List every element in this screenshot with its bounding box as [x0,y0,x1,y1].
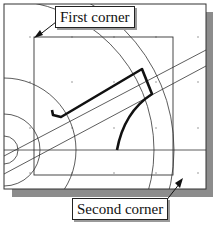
first-corner-callout: First corner [55,6,135,28]
drawing-canvas[interactable] [0,0,219,225]
frame-shadow-right [206,12,213,197]
frame-shadow-bottom [12,189,213,197]
second-corner-callout: Second corner [72,198,168,220]
